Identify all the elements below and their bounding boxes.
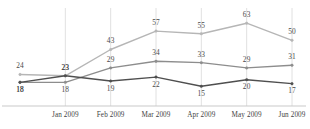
- data-point-label: 18: [62, 85, 70, 94]
- data-point-marker: [200, 85, 203, 88]
- data-point-label: 29: [243, 55, 251, 64]
- data-point-label: 50: [288, 27, 296, 36]
- data-point-marker: [245, 22, 248, 25]
- data-point-label: 19: [107, 84, 115, 93]
- data-point-marker: [19, 73, 22, 76]
- x-axis-tick-label: Apr 2009: [187, 111, 215, 119]
- data-point-marker: [19, 81, 22, 84]
- data-point-marker: [291, 39, 294, 42]
- data-point-label: 55: [198, 21, 206, 30]
- data-point-marker: [155, 60, 158, 63]
- data-point-label: 31: [288, 52, 296, 61]
- x-axis-tick-label: Jun 2009: [279, 111, 306, 119]
- data-point-marker: [245, 78, 248, 81]
- data-point-label: 33: [198, 50, 206, 59]
- data-point-marker: [200, 61, 203, 64]
- x-axis-tick-label: Feb 2009: [97, 111, 125, 119]
- data-point-marker: [291, 82, 294, 85]
- x-axis-tick-label: Jan 2009: [52, 111, 79, 119]
- data-point-label: 57: [152, 18, 160, 27]
- data-point-label: 29: [107, 55, 115, 64]
- x-axis-tick-label: Mar 2009: [142, 111, 171, 119]
- data-point-marker: [109, 48, 112, 51]
- data-point-label: 15: [198, 89, 206, 98]
- data-point-label: 23: [62, 63, 70, 72]
- data-point-marker: [200, 32, 203, 35]
- data-point-label: 22: [152, 80, 160, 89]
- x-axis-tick-label: May 2009: [232, 111, 262, 119]
- data-point-label: 17: [288, 86, 296, 95]
- data-point-marker: [155, 76, 158, 79]
- data-point-label: 20: [243, 82, 251, 91]
- data-point-label: 43: [107, 36, 115, 45]
- data-point-marker: [109, 80, 112, 83]
- data-point-marker: [109, 67, 112, 70]
- data-point-label: 24: [16, 61, 24, 70]
- data-point-label: 34: [152, 48, 160, 57]
- data-point-marker: [291, 64, 294, 67]
- data-point-marker: [245, 67, 248, 70]
- data-point-marker: [155, 30, 158, 33]
- data-point-label: 63: [243, 10, 251, 19]
- data-point-marker: [64, 81, 67, 84]
- line-chart: Jan 2009Feb 2009Mar 2009Apr 2009May 2009…: [0, 0, 310, 129]
- data-point-label: 18: [16, 85, 24, 94]
- data-point-marker: [64, 75, 67, 78]
